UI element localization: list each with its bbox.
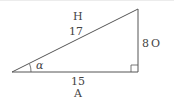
right-angle-marker [131, 65, 138, 72]
triangle-svg: α H 17 8 O 15 A [0, 1, 174, 99]
hypotenuse-name-label: H [73, 10, 83, 23]
hypotenuse-length-label: 17 [69, 25, 83, 38]
angle-alpha-label: α [36, 59, 44, 72]
angle-arc [30, 64, 31, 72]
adjacent-name-label: A [73, 87, 83, 99]
triangle-diagram: α H 17 8 O 15 A [0, 0, 174, 99]
opposite-length-label: 8 [142, 37, 149, 50]
opposite-name-label: O [151, 37, 160, 50]
